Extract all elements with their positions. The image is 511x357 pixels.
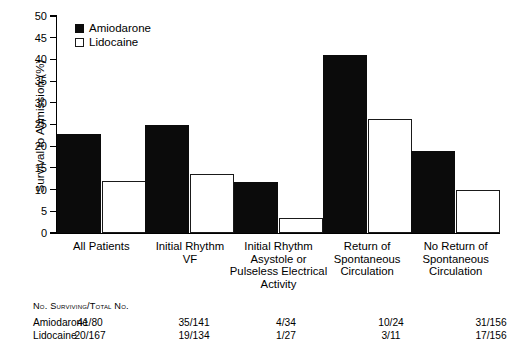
y-tick-50: 50 [50, 15, 57, 16]
category-label-line: Return of [317, 240, 417, 253]
y-tick-25: 25 [50, 124, 57, 125]
table-cell-0-2: 4/34 [256, 317, 316, 328]
bar-lidocaine-2 [279, 218, 323, 233]
bar-amiodarone-0 [57, 134, 101, 233]
category-label-line: No Return of [406, 240, 506, 253]
table-cell-1-4: 17/156 [461, 330, 511, 341]
category-label-line: Circulation [406, 265, 506, 278]
open-square-icon [75, 38, 84, 47]
filled-square-icon [75, 24, 84, 33]
bar-amiodarone-1 [145, 125, 189, 233]
category-label-line: Spontaneous [317, 253, 417, 266]
table-header: No. Surviving/Total No. [33, 301, 493, 311]
x-axis-category-labels: All PatientsInitial RhythmVFInitial Rhyt… [57, 240, 500, 298]
y-tick-label-30: 30 [35, 97, 47, 109]
category-label-line: Spontaneous [406, 253, 506, 266]
table-cell-0-3: 10/24 [361, 317, 421, 328]
data-table: No. Surviving/Total No. Amiodarone41/803… [33, 301, 493, 343]
y-tick-30: 30 [50, 102, 57, 103]
y-tick-label-5: 5 [41, 205, 47, 217]
y-tick-label-25: 25 [35, 118, 47, 130]
category-label-line: Activity [219, 278, 339, 291]
bar-lidocaine-1 [190, 174, 234, 233]
legend-item-amiodarone: Amiodarone [75, 22, 151, 36]
legend-label-lidocaine: Lidocaine [89, 36, 138, 50]
table-body: Amiodarone41/8035/1414/3410/2431/156Lido… [33, 317, 493, 343]
bar-lidocaine-0 [102, 181, 146, 233]
bar-amiodarone-2 [234, 182, 278, 233]
bar-amiodarone-4 [411, 151, 455, 233]
table-cell-0-4: 31/156 [461, 317, 511, 328]
legend-item-lidocaine: Lidocaine [75, 36, 151, 50]
y-tick-label-40: 40 [35, 53, 47, 65]
y-tick-label-0: 0 [41, 227, 47, 239]
y-tick-40: 40 [50, 59, 57, 60]
table-cell-1-0: 20/167 [60, 330, 120, 341]
y-tick-label-50: 50 [35, 10, 47, 22]
table-cell-1-1: 19/134 [164, 330, 224, 341]
table-row: Lidocaine20/16719/1341/273/1117/156 [33, 330, 493, 343]
category-label-3: Return ofSpontaneousCirculation [317, 240, 417, 278]
y-tick-label-45: 45 [35, 32, 47, 44]
bar-lidocaine-3 [368, 119, 412, 233]
y-tick-label-15: 15 [35, 162, 47, 174]
y-tick-label-35: 35 [35, 75, 47, 87]
category-label-line: Circulation [317, 265, 417, 278]
table-cell-0-1: 35/141 [164, 317, 224, 328]
legend-label-amiodarone: Amiodarone [89, 22, 151, 36]
category-label-line: All Patients [51, 240, 151, 253]
table-cell-1-3: 3/11 [361, 330, 421, 341]
y-tick-label-20: 20 [35, 140, 47, 152]
y-tick-45: 45 [50, 37, 57, 38]
x-axis-line [56, 233, 500, 234]
category-label-4: No Return ofSpontaneousCirculation [406, 240, 506, 278]
y-tick-label-10: 10 [35, 184, 47, 196]
table-row: Amiodarone41/8035/1414/3410/2431/156 [33, 317, 493, 330]
table-cell-0-0: 41/80 [60, 317, 120, 328]
chart-legend: Amiodarone Lidocaine [75, 22, 151, 49]
category-label-0: All Patients [51, 240, 151, 253]
bar-amiodarone-3 [323, 55, 367, 233]
table-cell-1-2: 1/27 [256, 330, 316, 341]
bar-lidocaine-4 [456, 190, 500, 233]
y-tick-35: 35 [50, 81, 57, 82]
